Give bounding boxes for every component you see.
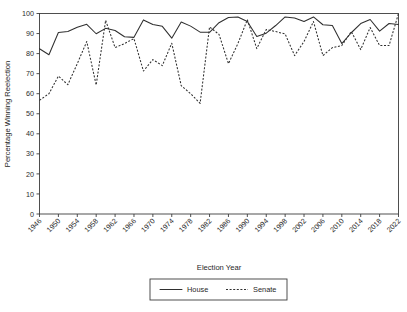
series-layer: [40, 14, 399, 104]
y-axis-title: Percentage Winning Reelection: [3, 61, 12, 167]
y-tick-label: 10: [26, 190, 34, 199]
x-tick-label: 1954: [64, 217, 82, 235]
series-line-senate: [40, 14, 399, 104]
x-tick-label: 1994: [252, 217, 270, 235]
y-axis-ticks: 0102030405060708090100: [22, 9, 40, 219]
y-tick-label: 40: [26, 129, 34, 138]
reelection-line-chart: 0102030405060708090100 19461950195419581…: [0, 0, 407, 312]
y-tick-label: 30: [26, 149, 34, 158]
y-tick-label: 0: [30, 210, 34, 219]
x-tick-label: 2002: [290, 217, 308, 235]
x-tick-label: 1982: [196, 217, 214, 235]
y-tick-label: 60: [26, 89, 34, 98]
y-tick-label: 20: [26, 170, 34, 179]
x-tick-label: 1990: [234, 217, 252, 235]
y-tick-label: 50: [26, 109, 34, 118]
series-line-house: [40, 17, 399, 55]
x-axis-title: Election Year: [197, 263, 242, 272]
x-tick-label: 2022: [385, 217, 403, 235]
x-tick-label: 1978: [177, 217, 195, 235]
x-tick-label: 1986: [215, 217, 233, 235]
y-tick-label: 70: [26, 69, 34, 78]
x-tick-label: 1946: [26, 217, 44, 235]
y-tick-label: 90: [26, 29, 34, 38]
x-tick-label: 1962: [101, 217, 119, 235]
y-tick-label: 80: [26, 49, 34, 58]
x-tick-label: 1950: [45, 217, 63, 235]
x-tick-label: 1970: [139, 217, 157, 235]
x-tick-label: 2010: [328, 217, 346, 235]
y-tick-label: 100: [22, 9, 34, 18]
x-tick-label: 1974: [158, 217, 176, 235]
x-tick-label: 2014: [347, 217, 365, 235]
x-tick-label: 2006: [309, 217, 327, 235]
plot-frame: [40, 14, 399, 215]
x-axis-ticks: 1946195019541958196219661970197419781982…: [26, 214, 403, 234]
x-tick-label: 1958: [82, 217, 100, 235]
x-tick-label: 2018: [366, 217, 384, 235]
chart-figure: 0102030405060708090100 19461950195419581…: [0, 0, 407, 312]
x-tick-label: 1998: [271, 217, 289, 235]
chart-legend[interactable]: HouseSenate: [150, 279, 287, 300]
x-tick-label: 1966: [120, 217, 138, 235]
legend-label-house[interactable]: House: [187, 285, 208, 294]
legend-label-senate[interactable]: Senate: [253, 285, 276, 294]
